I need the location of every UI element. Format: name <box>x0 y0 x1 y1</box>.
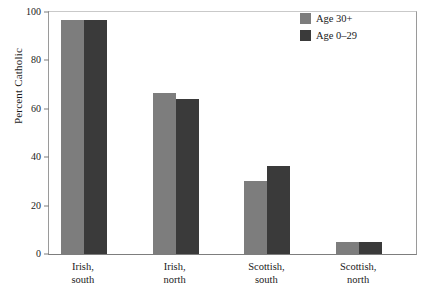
y-tick-label: 0 <box>36 249 41 259</box>
bar[interactable] <box>359 242 382 254</box>
y-tick-label: 20 <box>31 200 41 210</box>
bar[interactable] <box>176 99 199 254</box>
y-tick-label: 80 <box>31 55 41 65</box>
y-tick-label: 60 <box>31 103 41 113</box>
bar[interactable] <box>267 166 290 254</box>
legend-item[interactable]: Age 0–29 <box>300 28 400 43</box>
x-axis-label-line: north <box>298 273 418 286</box>
bar[interactable] <box>84 20 107 254</box>
plot-area: 020406080100 <box>48 11 417 255</box>
legend-swatch <box>300 13 311 24</box>
legend-item[interactable]: Age 30+ <box>300 11 400 26</box>
bar-group <box>153 12 199 254</box>
bar-group <box>61 12 107 254</box>
y-tick-label: 100 <box>26 7 41 17</box>
x-axis-label: Scottish,north <box>298 260 418 286</box>
bar-group <box>336 12 382 254</box>
legend-label: Age 30+ <box>316 13 353 24</box>
bar-group <box>244 12 290 254</box>
legend-label: Age 0–29 <box>316 30 357 41</box>
bar[interactable] <box>153 93 176 254</box>
bar-chart-figure: Percent Catholic 020406080100 Irish,sout… <box>0 0 429 298</box>
legend-swatch <box>300 30 311 41</box>
bar[interactable] <box>61 20 84 254</box>
bar[interactable] <box>336 242 359 254</box>
y-axis-title: Percent Catholic <box>12 16 24 156</box>
x-axis-label-line: Scottish, <box>298 260 418 273</box>
y-tick-label: 40 <box>31 152 41 162</box>
bars-layer <box>49 12 416 254</box>
chart-legend: Age 30+Age 0–29 <box>300 11 400 45</box>
bar[interactable] <box>244 181 267 254</box>
